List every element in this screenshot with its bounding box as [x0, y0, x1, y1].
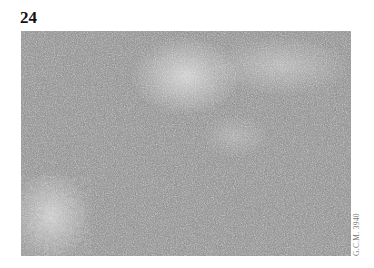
figure-number: 24	[20, 9, 37, 26]
photo-credit: G.C.M. 3940	[352, 213, 361, 256]
micrograph-texture	[21, 31, 351, 256]
histology-micrograph	[21, 31, 351, 256]
